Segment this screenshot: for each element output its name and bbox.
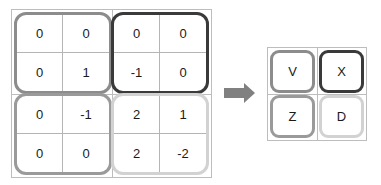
matrix-quadrant-bottom-right[interactable]: 2 1 2 -2: [111, 93, 209, 175]
numeric-matrix-grid: 0 0 0 1 0 0 -1 0 0 -1 0 0 2 1 2 -2: [11, 9, 212, 178]
matrix-cell: 0: [17, 15, 63, 53]
matrix-cell: 2: [114, 134, 160, 172]
letter-quadrant-top-left[interactable]: V: [270, 50, 315, 93]
diagram-canvas: 0 0 0 1 0 0 -1 0 0 -1 0 0 2 1 2 -2: [0, 0, 381, 185]
matrix-cell: 0: [114, 15, 160, 53]
letter-label: V: [288, 64, 297, 79]
matrix-cell: 0: [17, 53, 63, 91]
matrix-cell: 1: [160, 96, 206, 134]
matrix-cell: 0: [160, 15, 206, 53]
matrix-cell: 0: [63, 134, 109, 172]
matrix-cell: 2: [114, 96, 160, 134]
matrix-quadrant-top-left[interactable]: 0 0 0 1: [14, 12, 112, 94]
letter-quadrant-bottom-left[interactable]: Z: [270, 95, 315, 138]
matrix-cell: -2: [160, 134, 206, 172]
matrix-cell: 1: [63, 53, 109, 91]
letter-matrix-grid: V X Z D: [267, 47, 367, 141]
matrix-cell: 0: [160, 53, 206, 91]
right-arrow-icon: [224, 82, 256, 104]
matrix-cell: 0: [17, 134, 63, 172]
letter-label: D: [337, 109, 346, 124]
matrix-cell: 0: [63, 15, 109, 53]
letter-label: Z: [289, 109, 297, 124]
matrix-cell: -1: [63, 96, 109, 134]
matrix-quadrant-bottom-left[interactable]: 0 -1 0 0: [14, 93, 112, 175]
matrix-cell: 0: [17, 96, 63, 134]
letter-quadrant-bottom-right[interactable]: D: [319, 95, 364, 138]
matrix-quadrant-top-right[interactable]: 0 0 -1 0: [111, 12, 209, 94]
letter-label: X: [337, 64, 346, 79]
letter-quadrant-top-right[interactable]: X: [319, 50, 364, 93]
matrix-cell: -1: [114, 53, 160, 91]
